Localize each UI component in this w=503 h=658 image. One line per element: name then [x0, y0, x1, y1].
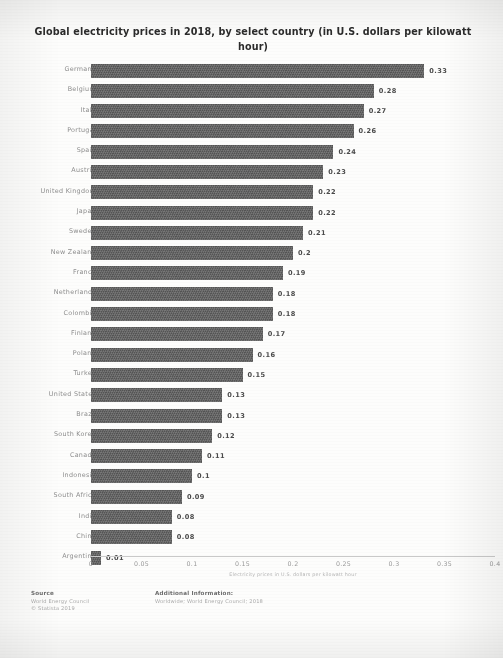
- bar-value-label: 0.13: [227, 412, 245, 420]
- bar: [91, 409, 222, 423]
- bar-row: Colombia0.18: [0, 306, 503, 326]
- bar: [91, 84, 374, 98]
- bar-row: Brazil0.13: [0, 407, 503, 427]
- bar: [91, 206, 313, 220]
- bar-row: Portugal0.26: [0, 123, 503, 143]
- source-heading: Source: [31, 590, 146, 596]
- bar-row: Finland0.17: [0, 326, 503, 346]
- bar-value-label: 0.08: [177, 513, 195, 521]
- bar-track: 0.18: [91, 307, 495, 321]
- category-label: India: [0, 512, 96, 520]
- bar-row: New Zealand0.2: [0, 245, 503, 265]
- bar-row: Sweden0.21: [0, 224, 503, 244]
- bar-value-label: 0.17: [268, 330, 286, 338]
- bar-value-label: 0.11: [207, 452, 225, 460]
- bar-row: United Kingdom0.22: [0, 184, 503, 204]
- category-label: Portugal: [0, 126, 96, 134]
- bar-track: 0.12: [91, 429, 495, 443]
- x-axis-tick-labels: 00.050.10.150.20.250.30.350.4: [91, 560, 495, 572]
- bar-value-label: 0.27: [369, 107, 387, 115]
- bar: [91, 348, 253, 362]
- bar-row: Indonesia0.1: [0, 468, 503, 488]
- category-label: Germany: [0, 65, 96, 73]
- bar-row: Poland0.16: [0, 346, 503, 366]
- bar: [91, 429, 212, 443]
- bar-row: Turkey0.15: [0, 366, 503, 386]
- additional-information-block: Additional Information: Worldwide; World…: [155, 590, 315, 605]
- bar-value-label: 0.22: [318, 209, 336, 217]
- bar: [91, 327, 263, 341]
- bar: [91, 510, 172, 524]
- bar: [91, 185, 313, 199]
- category-label: Netherlands: [0, 288, 96, 296]
- bar-track: 0.23: [91, 165, 495, 179]
- bar-row: Spain0.24: [0, 143, 503, 163]
- bar-value-label: 0.21: [308, 229, 326, 237]
- bar-track: 0.13: [91, 409, 495, 423]
- bar-track: 0.16: [91, 348, 495, 362]
- bar-value-label: 0.26: [359, 127, 377, 135]
- category-label: China: [0, 532, 96, 540]
- bar-track: 0.13: [91, 388, 495, 402]
- category-label: New Zealand: [0, 248, 96, 256]
- x-axis-line: [91, 556, 495, 557]
- bar-row: Austria0.23: [0, 163, 503, 183]
- bar-track: 0.08: [91, 530, 495, 544]
- x-axis-tick: 0.4: [490, 560, 501, 567]
- bar: [91, 165, 323, 179]
- x-axis-tick: 0.05: [134, 560, 149, 567]
- bar-row: Netherlands0.18: [0, 285, 503, 305]
- bar-track: 0.24: [91, 145, 495, 159]
- bar: [91, 145, 333, 159]
- bar-track: 0.15: [91, 368, 495, 382]
- bar: [91, 124, 354, 138]
- source-line: World Energy Council: [31, 598, 146, 605]
- category-label: Indonesia: [0, 471, 96, 479]
- bar-value-label: 0.18: [278, 290, 296, 298]
- bar-value-label: 0.16: [258, 351, 276, 359]
- bar-track: 0.17: [91, 327, 495, 341]
- bar-value-label: 0.24: [338, 148, 356, 156]
- bar-track: 0.08: [91, 510, 495, 524]
- statista-chart-page: Global electricity prices in 2018, by se…: [0, 0, 503, 658]
- page-title: Global electricity prices in 2018, by se…: [22, 24, 484, 54]
- bar-row: Canada0.11: [0, 448, 503, 468]
- bar-row: Belgium0.28: [0, 82, 503, 102]
- bar-row: South Korea0.12: [0, 427, 503, 447]
- bar-row: China0.08: [0, 529, 503, 549]
- category-label: South Africa: [0, 491, 96, 499]
- bar-value-label: 0.33: [429, 67, 447, 75]
- bar-value-label: 0.18: [278, 310, 296, 318]
- bar: [91, 104, 364, 118]
- bar-value-label: 0.12: [217, 432, 235, 440]
- bar-track: 0.09: [91, 490, 495, 504]
- bar-track: 0.18: [91, 287, 495, 301]
- bar-chart-plot-area: Germany0.33Belgium0.28Italy0.27Portugal0…: [0, 62, 503, 562]
- x-axis-title: Electricity prices in U.S. dollars per k…: [91, 572, 495, 577]
- bar-track: 0.11: [91, 449, 495, 463]
- category-label: Finland: [0, 329, 96, 337]
- category-label: Spain: [0, 146, 96, 154]
- chart-footer: Source World Energy Council © Statista 2…: [0, 588, 503, 658]
- bar-track: 0.19: [91, 266, 495, 280]
- bar-row: South Africa0.09: [0, 488, 503, 508]
- bar-value-label: 0.28: [379, 87, 397, 95]
- source-block: Source World Energy Council © Statista 2…: [31, 590, 146, 611]
- bar-row: India0.08: [0, 509, 503, 529]
- category-label: Turkey: [0, 369, 96, 377]
- bar-value-label: 0.13: [227, 391, 245, 399]
- source-copyright: © Statista 2019: [31, 605, 146, 612]
- x-axis-tick: 0: [89, 560, 93, 567]
- category-label: United Kingdom: [0, 187, 96, 195]
- bar: [91, 490, 182, 504]
- bar-value-label: 0.1: [197, 472, 210, 480]
- x-axis-tick: 0.1: [187, 560, 198, 567]
- x-axis-tick: 0.2: [288, 560, 299, 567]
- bar-track: 0.2: [91, 246, 495, 260]
- bar: [91, 388, 222, 402]
- category-label: Sweden: [0, 227, 96, 235]
- category-label: Poland: [0, 349, 96, 357]
- bar-value-label: 0.09: [187, 493, 205, 501]
- category-label: Argentina: [0, 552, 96, 560]
- x-axis-tick: 0.35: [437, 560, 452, 567]
